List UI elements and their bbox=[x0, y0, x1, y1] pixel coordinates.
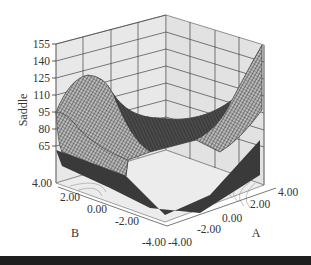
z-tick: 80 bbox=[39, 123, 51, 135]
a-tick: 0.00 bbox=[222, 212, 242, 224]
a-tick: -2.00 bbox=[197, 223, 221, 235]
b-tick: 4.00 bbox=[32, 177, 52, 189]
a-tick: 2.00 bbox=[250, 198, 270, 210]
surface-plot: 155 140 125 110 95 80 65 Saddle 4.00 2.0… bbox=[0, 0, 311, 265]
z-tick: 110 bbox=[33, 89, 50, 101]
z-tick: 140 bbox=[33, 55, 51, 67]
z-axis: 155 140 125 110 95 80 65 Saddle bbox=[16, 38, 56, 152]
z-tick: 125 bbox=[33, 72, 51, 84]
b-tick: -4.00 bbox=[142, 236, 166, 248]
z-tick: 95 bbox=[39, 106, 51, 118]
bottom-bar bbox=[0, 256, 311, 265]
a-axis-label: A bbox=[252, 226, 261, 240]
z-tick: 65 bbox=[39, 140, 51, 152]
b-tick: 2.00 bbox=[60, 191, 80, 203]
b-tick: -2.00 bbox=[115, 215, 139, 227]
b-axis-label: B bbox=[71, 226, 79, 240]
a-tick: -4.00 bbox=[168, 236, 192, 248]
a-tick: 4.00 bbox=[278, 186, 298, 198]
b-tick: 0.00 bbox=[87, 203, 107, 215]
z-tick: 155 bbox=[33, 38, 51, 50]
z-axis-label: Saddle bbox=[16, 94, 30, 127]
